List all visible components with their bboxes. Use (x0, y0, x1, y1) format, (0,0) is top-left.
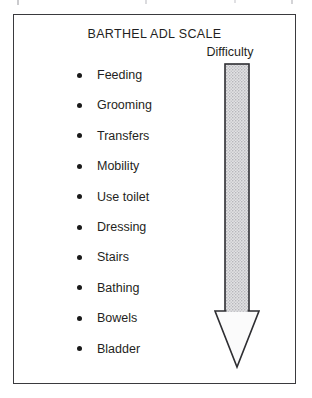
difficulty-group: Difficulty (184, 45, 284, 375)
bullet-icon (77, 103, 82, 108)
list-item: Use toilet (67, 182, 187, 212)
scan-speck (17, 0, 19, 5)
list-item: Bladder (67, 334, 187, 364)
down-arrow-icon (184, 63, 284, 375)
list-item: Bathing (67, 273, 187, 303)
bullet-icon (77, 133, 82, 138)
adl-item-list: Feeding Grooming Transfers Mobility Use … (67, 60, 187, 364)
scan-speck (145, 0, 147, 4)
adl-item-label: Stairs (97, 242, 129, 272)
list-item: Stairs (67, 242, 187, 272)
figure-title: BARTHEL ADL SCALE (14, 27, 295, 41)
list-item: Transfers (67, 121, 187, 151)
adl-item-label: Bowels (97, 303, 137, 333)
figure-frame: BARTHEL ADL SCALE Feeding Grooming Trans… (13, 14, 296, 384)
bullet-icon (77, 225, 82, 230)
scan-speck (234, 0, 236, 3)
adl-item-label: Use toilet (97, 182, 149, 212)
list-item: Grooming (67, 90, 187, 120)
difficulty-label: Difficulty (184, 45, 276, 59)
list-item: Bowels (67, 303, 187, 333)
adl-item-label: Dressing (97, 212, 146, 242)
bullet-icon (77, 285, 82, 290)
adl-item-label: Bladder (97, 334, 140, 364)
scan-artifacts (0, 0, 312, 12)
bullet-icon (77, 194, 82, 199)
bullet-icon (77, 73, 82, 78)
scan-speck (291, 0, 293, 4)
adl-item-label: Mobility (97, 151, 139, 181)
list-item: Feeding (67, 60, 187, 90)
bullet-icon (77, 255, 82, 260)
adl-item-label: Bathing (97, 273, 139, 303)
list-item: Mobility (67, 151, 187, 181)
list-item: Dressing (67, 212, 187, 242)
bullet-icon (77, 316, 82, 321)
adl-item-label: Grooming (97, 90, 152, 120)
adl-item-label: Feeding (97, 60, 142, 90)
bullet-icon (77, 346, 82, 351)
bullet-icon (77, 164, 82, 169)
adl-item-label: Transfers (97, 121, 149, 151)
